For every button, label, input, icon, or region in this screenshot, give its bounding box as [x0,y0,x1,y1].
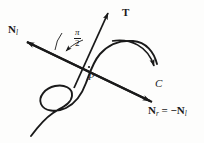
angle-arc [55,33,62,50]
label-equation-normals: Nr = −Nl [148,105,187,118]
label-curve: C [155,78,162,89]
point-p-marker [88,66,90,68]
label-angle-pi-over-2: π 2 [74,28,81,48]
fraction-numerator: π [74,28,81,37]
orientation-arrow [112,40,154,66]
normal-left-subscript: l [16,29,18,37]
label-point-p: P [88,72,94,82]
label-tangent: T [122,7,129,18]
equation-rhs-symbol: N [177,104,185,116]
label-normal-left: Nl [8,24,18,37]
figure-container: Nl T C P π 2 Nr = −Nl [0,0,204,143]
curve-c-path [31,41,157,136]
fraction-denominator: 2 [74,39,81,48]
equation-relation: = − [159,104,177,116]
equation-lhs-symbol: N [148,104,156,116]
fraction: π 2 [74,28,81,48]
equation-rhs-subscript: l [185,110,187,118]
diagram-canvas [0,0,204,143]
normal-left-symbol: N [8,23,16,35]
